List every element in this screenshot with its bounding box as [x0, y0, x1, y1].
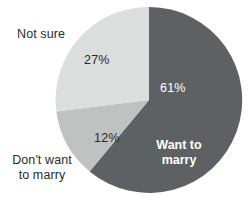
pie-value-not-sure: 27% — [84, 53, 110, 67]
pie-value-want-to-marry: 61% — [160, 81, 186, 95]
pie-label-want-to-marry: Want to marry — [136, 138, 222, 167]
pie-chart: Not sure Don't want to marry Want to mar… — [0, 0, 249, 207]
pie-label-dont-want-to-marry: Don't want to marry — [3, 153, 81, 182]
pie-value-dont-want-to-marry: 12% — [94, 131, 120, 145]
pie-label-not-sure: Not sure — [17, 27, 65, 42]
